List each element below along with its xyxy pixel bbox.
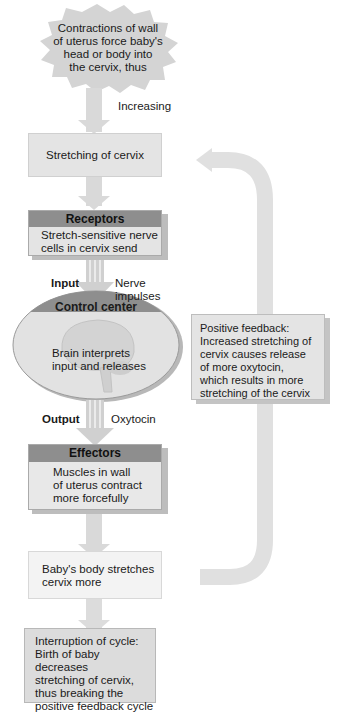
- stretching-text: Stretching of cervix: [29, 149, 161, 162]
- arrow-stimulus-to-stretching: [78, 88, 110, 134]
- effectors-line: more forcefully: [53, 492, 142, 505]
- stimulus-line: head or body into: [48, 48, 168, 61]
- effectors-text: Muscles in wall of uterus contract more …: [53, 466, 142, 505]
- effectors-line: of uterus contract: [53, 479, 142, 492]
- control-center-text: Brain interprets input and releases: [52, 347, 146, 373]
- feedback-line: which results in more: [200, 374, 311, 387]
- stretching-box: Stretching of cervix: [28, 133, 162, 177]
- control-center-line: input and releases: [52, 360, 146, 373]
- result-text: Baby's body stretches cervix more: [42, 563, 154, 589]
- effectors-line: Muscles in wall: [53, 466, 142, 479]
- feedback-line: cervix causes release: [200, 348, 311, 361]
- interruption-line: positive feedback cycle: [35, 700, 155, 713]
- result-line: cervix more: [42, 576, 154, 589]
- receptors-line: Stretch-sensitive nerve: [41, 229, 158, 242]
- interruption-box: Interruption of cycle: Birth of baby dec…: [24, 628, 156, 703]
- control-center-title: Control center: [30, 300, 162, 314]
- interruption-text: Interruption of cycle: Birth of baby dec…: [35, 635, 155, 713]
- interruption-line: stretching of cervix,: [35, 674, 155, 687]
- receptors-box: Receptors Stretch-sensitive nerve cells …: [28, 210, 162, 256]
- effectors-box: Effectors Muscles in wall of uterus cont…: [28, 444, 162, 510]
- feedback-note-box: Positive feedback: Increased stretching …: [191, 314, 325, 400]
- arrow-output: [76, 400, 114, 446]
- receptors-text: Stretch-sensitive nerve cells in cervix …: [41, 229, 158, 255]
- increasing-label: Increasing: [118, 100, 171, 113]
- interruption-line: thus breaking the: [35, 687, 155, 700]
- receptors-title: Receptors: [29, 211, 161, 227]
- result-line: Baby's body stretches: [42, 563, 154, 576]
- interruption-line: Interruption of cycle:: [35, 635, 155, 648]
- signal-line: Nerve: [115, 277, 160, 290]
- stimulus-line: the cervix, thus: [48, 61, 168, 74]
- feedback-line: of more oxytocin,: [200, 361, 311, 374]
- feedback-line: Increased stretching of: [200, 335, 311, 348]
- feedback-note-text: Positive feedback: Increased stretching …: [200, 322, 311, 400]
- control-center-line: Brain interprets: [52, 347, 146, 360]
- stimulus-text: Contractions of wall of uterus force bab…: [48, 22, 168, 74]
- effectors-title: Effectors: [29, 445, 161, 462]
- feedback-line: Positive feedback:: [200, 322, 311, 335]
- oxytocin-label: Oxytocin: [111, 413, 156, 426]
- input-label: Input: [51, 277, 79, 290]
- stimulus-line: of uterus force baby's: [48, 35, 168, 48]
- stimulus-line: Contractions of wall: [48, 22, 168, 35]
- arrow-stretching-to-receptors: [78, 176, 110, 210]
- feedback-line: stretching of the cervix: [200, 387, 311, 400]
- receptors-line: cells in cervix send: [41, 242, 158, 255]
- result-box: Baby's body stretches cervix more: [28, 551, 162, 599]
- output-label: Output: [42, 413, 80, 426]
- interruption-line: Birth of baby decreases: [35, 648, 155, 674]
